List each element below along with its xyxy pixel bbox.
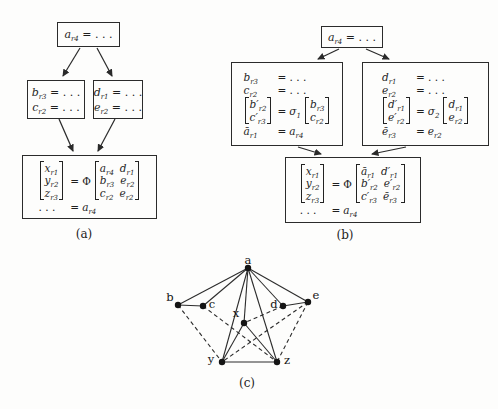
equation-rhs: = . . .: [82, 28, 112, 41]
tree-b-root-box: ar4 = . . .: [321, 26, 383, 48]
graph-node-label-b: b: [166, 290, 173, 304]
math-symbol: cr2: [310, 111, 325, 124]
math-symbol: c′r3: [361, 190, 377, 203]
equation: ar4 = . . .: [64, 28, 112, 41]
equation-rhs: = . . .: [277, 84, 330, 96]
phi-matrix: = Φ ar4dr1 br3er2 cr2er2: [70, 161, 140, 201]
math-symbol: er2: [382, 84, 411, 96]
math-symbol: br3: [100, 174, 115, 187]
equation: dr1 = . . .: [94, 86, 143, 99]
graph-edge-b-c: [178, 305, 203, 306]
tail-equation: = ar4: [70, 201, 140, 213]
graph-edge-x-z: [244, 323, 277, 362]
math-symbol: er2: [119, 187, 133, 200]
equation-rhs: = . . .: [50, 86, 80, 99]
math-symbol: er2: [94, 101, 108, 114]
math-symbol: xr1: [306, 165, 320, 178]
equation-rhs: = . . .: [112, 101, 142, 114]
tree-b-arrow-right-bottom: [372, 147, 406, 154]
math-symbol: b′r2: [361, 177, 378, 190]
equals-sign: =: [70, 201, 79, 213]
tree-a-left-box: br3 = . . . cr2 = . . .: [27, 80, 85, 119]
sigma-equation: = σ1 br3 cr2: [277, 97, 330, 124]
graph-node-label-y: y: [207, 352, 215, 366]
ellipsis: . . .: [300, 204, 326, 216]
equation-rhs: = . . .: [416, 71, 469, 83]
tree-b-left-box: br3 = . . . cr2 = . . . b′r2 c′r3 = σ1 b…: [231, 62, 343, 146]
graph-node-label-d: d: [270, 297, 278, 311]
phi-matrix: = Φ ār1d′r1 b′r2e′r2 c′r3ēr3: [331, 164, 406, 204]
graph-edge-a-d: [248, 268, 283, 306]
tree-a-root-box: ar4 = . . .: [57, 22, 120, 47]
math-symbol: b′r2: [250, 98, 267, 111]
graph-node-c: [200, 303, 206, 309]
coefficient-matrix: ār1d′r1 b′r2e′r2 c′r3ēr3: [356, 164, 405, 204]
graph-node-e: [305, 299, 311, 305]
math-symbol: ar4: [64, 28, 78, 41]
caption-b: (b): [336, 228, 353, 242]
tail-equation: = ar4: [277, 125, 330, 137]
source-vector: dr1 er2: [443, 97, 468, 124]
ellipsis: . . .: [39, 201, 65, 213]
equation: br3 = . . .: [32, 86, 81, 99]
equals-sign: =: [277, 105, 286, 117]
tree-b-arrow-root-left: [318, 49, 339, 59]
math-symbol: ar4: [100, 162, 114, 175]
coefficient-matrix: ar4dr1 br3er2 cr2er2: [95, 161, 140, 201]
equation-list: dr1 = . . . er2 = . . . d′r1 e′r2 = σ2 d…: [382, 71, 469, 137]
tree-a-right-box: dr1 = . . . er2 = . . .: [93, 80, 143, 119]
math-symbol: ar4: [328, 31, 342, 44]
equals-sign: =: [70, 175, 79, 187]
math-symbol: e′r2: [388, 111, 405, 124]
math-symbol: dr1: [382, 71, 411, 83]
math-symbol: ar4: [289, 125, 303, 137]
sigma-operator: σ: [428, 105, 435, 117]
graph-edge-b-y: [178, 305, 222, 362]
math-symbol: br3: [310, 98, 325, 111]
math-symbol: dr1: [448, 98, 463, 111]
math-symbol: dr1: [94, 86, 109, 99]
graph-node-label-a: a: [245, 253, 252, 267]
graph-node-label-z: z: [284, 353, 290, 367]
math-symbol: c′r3: [250, 111, 267, 124]
math-symbol: er2: [448, 111, 463, 124]
math-symbol: ar4: [343, 204, 357, 216]
tail-equation: = ar4: [331, 204, 406, 216]
math-symbol: er2: [120, 174, 134, 187]
math-symbol: cr2: [244, 84, 273, 96]
equation: ar4 = . . .: [328, 31, 376, 44]
phi-operator: Φ: [82, 175, 91, 187]
math-symbol: br3: [32, 86, 47, 99]
graph-edge-e-z: [277, 302, 308, 362]
graph-node-y: [219, 359, 225, 365]
math-symbol: ār1: [244, 125, 273, 137]
math-symbol: e′r2: [384, 177, 400, 190]
math-symbol: yr2: [306, 177, 320, 190]
matrix-equation: xr1 yr2 zr3 = Φ ār1d′r1 b′r2e′r2 c′r3ēr3…: [300, 164, 407, 217]
xyz-vector: xr1 yr2 zr3: [301, 164, 325, 204]
tree-b-arrow-left-bottom: [298, 147, 321, 154]
graph-node-label-c: c: [209, 297, 215, 311]
caption-c: (c): [239, 376, 255, 390]
equals-sign: =: [331, 204, 340, 216]
sigma-equation: = σ2 dr1 er2: [416, 97, 469, 124]
equation-list: br3 = . . . cr2 = . . . b′r2 c′r3 = σ1 b…: [244, 71, 331, 137]
sigma-index: 2: [435, 112, 439, 120]
equation-rhs: = . . .: [112, 86, 142, 99]
graph-node-label-x: x: [233, 306, 240, 320]
equation-rhs: = . . .: [416, 84, 469, 96]
phi-operator: Φ: [343, 178, 352, 190]
sigma-index: 1: [296, 112, 300, 120]
equals-sign: =: [277, 125, 286, 137]
math-symbol: dr1: [120, 162, 135, 175]
math-symbol: ār1: [361, 165, 375, 178]
math-symbol: ēr3: [383, 190, 397, 203]
math-symbol: ar4: [82, 201, 96, 213]
tree-a-arrow-left-bottom: [59, 119, 73, 151]
math-symbol: zr3: [45, 187, 59, 200]
math-symbol: d′r1: [388, 98, 405, 111]
graph-node-x: [241, 320, 247, 326]
math-symbol: cr2: [100, 187, 114, 200]
math-symbol: xr1: [45, 162, 59, 175]
graph-node-b: [175, 302, 181, 308]
